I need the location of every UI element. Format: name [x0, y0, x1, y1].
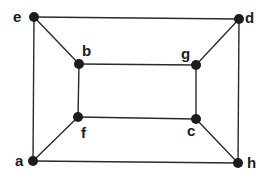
node-e — [29, 12, 39, 22]
edge-d-h — [238, 19, 239, 163]
edge-d-g — [196, 19, 239, 65]
node-label-f: f — [81, 124, 87, 141]
node-label-d: d — [245, 9, 254, 26]
node-label-e: e — [13, 8, 21, 25]
node-label-c: c — [187, 122, 195, 139]
node-g — [191, 60, 201, 70]
edge-e-d — [34, 17, 239, 19]
graph-edges — [33, 17, 239, 163]
edge-h-a — [33, 161, 238, 163]
node-f — [73, 112, 83, 122]
node-label-h: h — [247, 154, 256, 171]
node-label-a: a — [15, 152, 24, 169]
edge-h-c — [196, 119, 238, 163]
node-label-b: b — [82, 42, 91, 59]
graph-nodes — [28, 12, 244, 168]
edge-a-f — [33, 117, 78, 161]
edge-c-f — [78, 117, 196, 119]
edge-b-g — [79, 64, 196, 65]
edge-a-e — [33, 17, 34, 161]
node-d — [234, 14, 244, 24]
node-b — [74, 59, 84, 69]
edge-f-b — [78, 64, 79, 117]
edge-e-b — [34, 17, 79, 64]
node-h — [233, 158, 243, 168]
graph-diagram: edbgfcah — [0, 0, 272, 179]
node-a — [28, 156, 38, 166]
node-label-g: g — [181, 45, 190, 62]
